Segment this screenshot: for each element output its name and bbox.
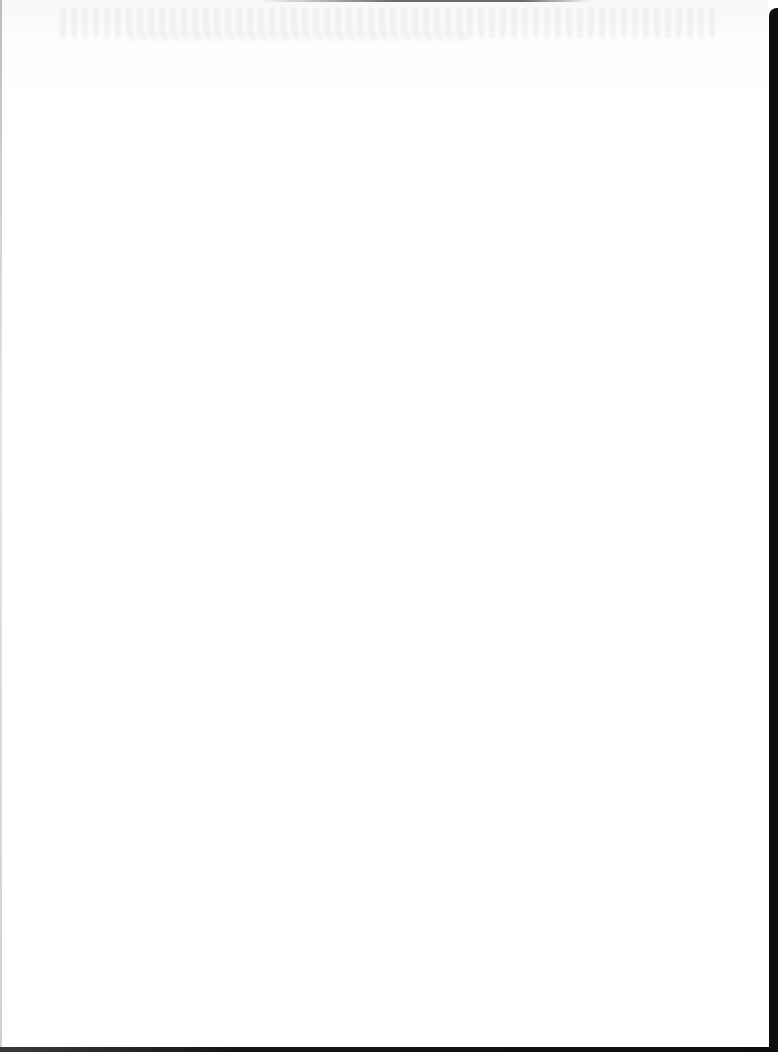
scan-edge-top <box>260 0 590 2</box>
scan-edge-right <box>769 8 778 1052</box>
scan-edge-left <box>0 0 2 1052</box>
scanned-document <box>0 0 778 1052</box>
scan-edge-bottom <box>0 1047 778 1052</box>
blank-page <box>0 0 768 1046</box>
bleed-through-text-line-2 <box>130 30 470 42</box>
